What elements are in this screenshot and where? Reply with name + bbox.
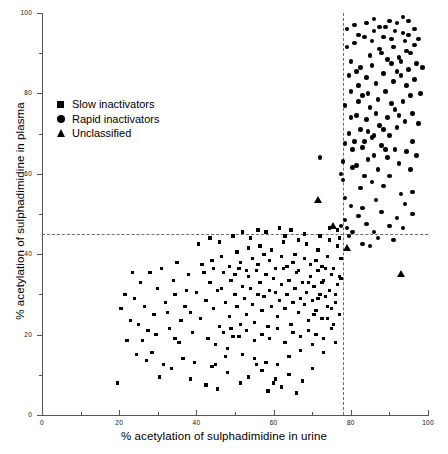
data-point-square — [241, 353, 244, 356]
data-point-square — [226, 347, 229, 350]
data-point-circle — [389, 37, 394, 42]
data-point-square — [253, 321, 256, 324]
data-point-circle — [395, 69, 400, 74]
data-point-circle — [341, 178, 346, 183]
data-point-circle — [381, 71, 386, 76]
data-point-square — [330, 273, 333, 276]
data-point-circle — [372, 133, 377, 138]
data-point-square — [264, 361, 267, 364]
data-point-square — [303, 257, 306, 260]
data-point-square — [237, 335, 240, 338]
y-tick — [37, 415, 43, 416]
data-point-circle — [358, 65, 363, 70]
data-point-circle — [360, 206, 365, 211]
data-point-square — [287, 279, 290, 282]
y-tick-label: 100 — [2, 9, 32, 16]
data-point-square — [285, 293, 288, 296]
data-point-circle — [412, 43, 417, 48]
data-point-square — [297, 238, 300, 241]
data-point-square — [314, 309, 317, 312]
data-point-circle — [385, 155, 390, 160]
data-point-square — [150, 351, 153, 354]
data-point-square — [280, 385, 283, 388]
x-tick-label: 80 — [336, 419, 366, 426]
y-tick-label: 0 — [2, 411, 32, 418]
data-point-square — [322, 337, 325, 340]
data-point-circle — [349, 89, 354, 94]
data-point-square — [233, 273, 236, 276]
data-point-square — [283, 234, 286, 237]
data-point-square — [243, 297, 246, 300]
data-point-square — [311, 367, 314, 370]
data-point-square — [235, 305, 238, 308]
data-point-square — [168, 327, 171, 330]
data-point-circle — [379, 210, 384, 215]
data-point-square — [214, 363, 217, 366]
data-point-square — [324, 295, 327, 298]
data-point-square — [187, 273, 190, 276]
data-point-circle — [354, 69, 359, 74]
data-point-square — [282, 240, 285, 243]
data-point-square — [322, 351, 325, 354]
data-point-circle — [404, 83, 409, 88]
data-point-square — [146, 329, 149, 332]
data-point-circle — [399, 59, 404, 64]
data-point-square — [334, 293, 337, 296]
data-point-square — [231, 335, 234, 338]
data-point-circle — [370, 63, 375, 68]
data-point-square — [181, 357, 184, 360]
data-point-square — [249, 236, 252, 239]
data-point-circle — [343, 141, 348, 146]
data-point-square — [226, 371, 229, 374]
data-point-square — [291, 261, 294, 264]
data-point-square — [197, 242, 200, 245]
data-point-square — [256, 228, 259, 231]
legend-label-unclassified: Unclassified — [70, 126, 131, 141]
data-point-square — [303, 232, 306, 235]
data-point-circle — [406, 19, 411, 24]
data-point-circle — [339, 224, 344, 229]
data-point-square — [245, 329, 248, 332]
data-point-square — [312, 285, 315, 288]
data-point-circle — [343, 218, 348, 223]
data-point-circle — [372, 29, 377, 34]
chart-legend: Slow inactivators Rapid inactivators Unc… — [57, 97, 159, 141]
data-point-square — [299, 297, 302, 300]
data-point-square — [210, 259, 213, 262]
data-point-circle — [356, 83, 361, 88]
data-point-circle — [362, 35, 367, 40]
data-point-circle — [360, 93, 365, 98]
data-point-circle — [387, 174, 392, 179]
data-point-circle — [395, 125, 400, 130]
data-point-square — [283, 307, 286, 310]
data-point-square — [160, 267, 163, 270]
data-point-square — [199, 317, 202, 320]
data-point-circle — [352, 139, 357, 144]
data-point-circle — [377, 25, 382, 30]
data-point-square — [251, 257, 254, 260]
data-point-square — [208, 236, 211, 239]
data-point-circle — [406, 33, 411, 38]
data-point-circle — [401, 99, 406, 104]
data-point-circle — [345, 45, 350, 50]
data-point-square — [291, 331, 294, 334]
data-point-square — [334, 301, 337, 304]
data-point-square — [307, 281, 310, 284]
data-point-circle — [376, 236, 381, 241]
data-point-circle — [356, 214, 361, 219]
data-point-circle — [349, 115, 354, 120]
data-point-square — [204, 299, 207, 302]
data-point-square — [247, 275, 250, 278]
data-point-square — [305, 242, 308, 245]
data-point-square — [328, 238, 331, 241]
data-point-square — [222, 271, 225, 274]
data-point-circle — [374, 111, 379, 116]
data-point-square — [123, 293, 126, 296]
data-point-circle — [347, 234, 352, 239]
data-point-circle — [410, 139, 415, 144]
data-point-square — [228, 265, 231, 268]
data-point-circle — [339, 172, 344, 177]
data-point-circle — [352, 23, 357, 28]
data-point-triangle — [343, 244, 351, 251]
data-point-square — [233, 293, 236, 296]
